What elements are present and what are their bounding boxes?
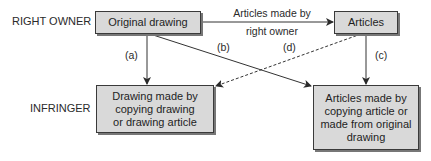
node-infringer-articles: Articles made by copying article or made… <box>313 85 419 150</box>
node-infringer-articles-line-4: drawing <box>347 131 386 144</box>
row-label-right-owner: RIGHT OWNER <box>12 15 91 27</box>
edge-label-b: (b) <box>217 41 230 53</box>
node-infringer-articles-line-1: Articles made by <box>325 92 406 105</box>
node-infringer-articles-line-3: made from original <box>320 118 411 131</box>
node-articles: Articles <box>334 11 398 34</box>
node-infringer-drawing-line-1: Drawing made by <box>112 90 198 103</box>
edge-label-a: (a) <box>125 49 138 61</box>
row-label-infringer: INFRINGER <box>30 102 91 114</box>
node-infringer-drawing-line-3: or drawing article <box>113 116 197 129</box>
edge-label-top-line-1: Articles made by <box>224 7 320 19</box>
edge-label-top-line-2: right owner <box>224 25 320 37</box>
node-original-drawing-label: Original drawing <box>108 16 187 29</box>
node-infringer-articles-line-2: copying article or <box>324 105 407 118</box>
node-original-drawing: Original drawing <box>95 11 201 34</box>
node-infringer-drawing-line-2: copying drawing <box>115 103 195 116</box>
edge-label-c: (c) <box>375 49 387 61</box>
edge-label-d: (d) <box>283 41 296 53</box>
node-articles-label: Articles <box>348 16 384 29</box>
node-infringer-drawing: Drawing made by copying drawing or drawi… <box>96 85 214 133</box>
